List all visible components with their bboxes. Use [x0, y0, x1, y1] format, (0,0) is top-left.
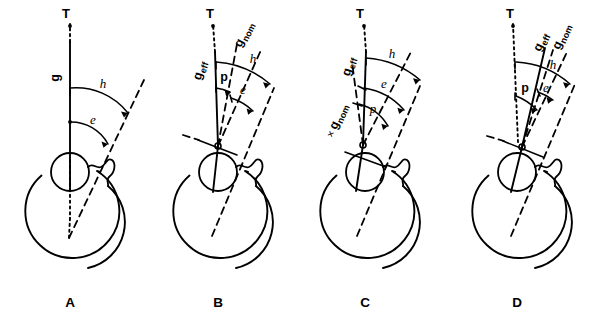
label-gnom-C: × g nom — [323, 101, 352, 140]
arc-h-A — [70, 88, 128, 113]
label-h-A: h — [100, 76, 107, 91]
arc-h-C — [366, 58, 420, 80]
eye-globe-back-D — [535, 186, 572, 268]
eye-globe-back-C — [383, 186, 420, 268]
target-dot-B — [211, 24, 215, 28]
panel-letter-B: B — [213, 295, 223, 310]
visual-axis-A — [69, 80, 144, 238]
target-dot-C — [362, 24, 366, 28]
optical-axis-D — [522, 52, 567, 147]
eye-globe-B — [173, 171, 267, 258]
axis-geff-lower-C — [356, 145, 363, 191]
axis-T-D — [513, 24, 518, 142]
label-geff-sub-C: eff — [347, 56, 360, 70]
label-gnom-D: g nom — [549, 21, 575, 52]
label-h-B: h — [250, 51, 257, 66]
label-p-D: p — [521, 81, 529, 95]
label-e-D: e — [543, 80, 549, 95]
panel-D: T g eff g nom h p e D — [472, 6, 575, 310]
label-target-B: T — [206, 6, 214, 21]
panel-letter-A: A — [65, 295, 75, 310]
label-target-C: T — [356, 6, 364, 21]
panel-A: T g h e A — [25, 6, 144, 310]
panel-letter-D: D — [512, 295, 522, 310]
arc-e-start-A — [68, 120, 72, 124]
panel-C: T g eff × g nom h e p C — [320, 6, 420, 310]
label-target-D: T — [506, 6, 514, 21]
eye-globe-back-A — [88, 186, 125, 268]
label-p-B: p — [220, 70, 228, 84]
cornea-D — [498, 153, 536, 191]
optical-axis-C — [363, 50, 412, 145]
node-dash-left-D — [487, 136, 504, 141]
visual-axis-C — [357, 86, 420, 236]
panel-letter-C: C — [360, 295, 370, 310]
label-h-D: h — [550, 57, 557, 72]
axis-geff-dotted-C — [364, 24, 366, 52]
label-p-C: p — [369, 101, 377, 116]
eye-globe-D — [472, 171, 566, 258]
label-gnom-sub-B: nom — [240, 22, 258, 43]
label-geff-D: g eff — [530, 29, 553, 54]
label-target-A: T — [62, 6, 70, 21]
label-e-A: e — [90, 112, 96, 127]
node-dash-left-B — [183, 135, 199, 140]
eye-axes-diagram: T g h e A — [0, 0, 599, 322]
label-geff-sub-B: eff — [198, 60, 211, 74]
arc-e-A — [70, 122, 108, 144]
cornea-B — [199, 153, 237, 191]
target-dot-D — [511, 24, 515, 28]
arc-e-tick-B — [230, 95, 232, 102]
label-e-C: e — [381, 76, 387, 91]
label-gnom-sub-D: nom — [558, 24, 575, 45]
eye-globe-back-B — [236, 186, 273, 268]
figure-container: T g h e A — [0, 0, 599, 322]
label-gnom-sub-C: nom — [335, 104, 352, 125]
label-gnom-B: g nom — [231, 19, 258, 50]
visual-axis-D — [511, 84, 575, 236]
axis-geff-C — [363, 52, 366, 145]
label-h-C: h — [389, 46, 396, 61]
visual-axis-B — [212, 88, 274, 236]
label-geff-C: g eff — [339, 54, 360, 78]
target-dot-A — [68, 24, 72, 28]
label-geff-B: g eff — [78, 42, 211, 269]
label-e-B: e — [240, 82, 246, 97]
eye-globe-A — [25, 171, 119, 258]
label-g-A: g — [48, 74, 62, 82]
axis-geff-dotted-B — [213, 24, 215, 52]
eye-globe-C — [320, 171, 414, 258]
